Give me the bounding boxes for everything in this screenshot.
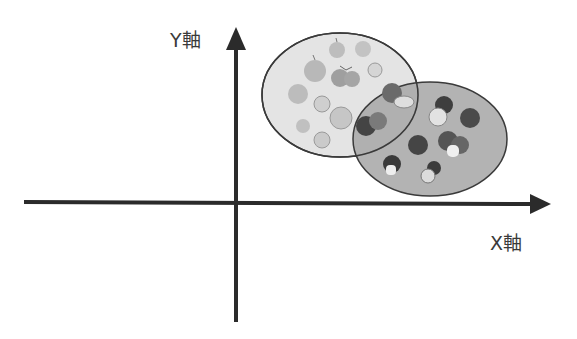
orange-fruit-icon (355, 41, 371, 57)
scatter-diagram (0, 0, 577, 339)
y-axis-arrow-icon (226, 27, 246, 50)
orange-fruit-icon (368, 63, 382, 77)
orange-fruit-icon (314, 132, 330, 148)
y-axis-label: Y軸 (170, 25, 201, 52)
orange-fruit-icon (330, 107, 352, 129)
orange-fruit-icon (296, 119, 310, 133)
orange-fruit-icon (288, 84, 308, 104)
apple-fruit-icon (460, 108, 480, 128)
apple-fruit-icon (408, 135, 428, 155)
x-axis-arrow-icon (530, 194, 551, 214)
orange-fruit-icon (314, 96, 330, 112)
y-axis (226, 27, 246, 322)
x-axis (24, 194, 551, 214)
x-axis-label: X軸 (490, 228, 522, 255)
